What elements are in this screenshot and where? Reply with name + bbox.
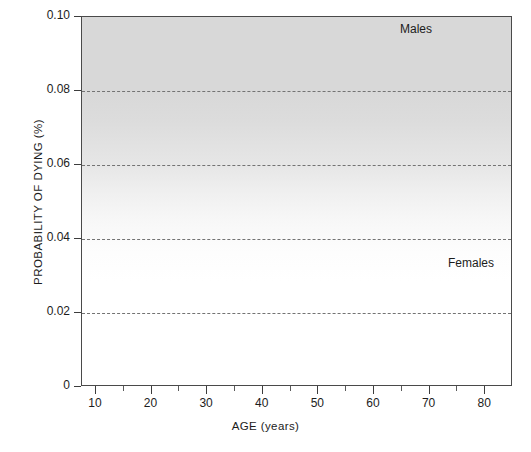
x-tick-label-6: 70 [409,396,449,410]
y-tick-label-0: 0 [26,378,70,392]
y-tick-label-5: 0.10 [26,8,70,22]
y-tick-label-2: 0.04 [26,230,70,244]
plot-area [81,16,512,386]
y-tick-label-1: 0.02 [26,304,70,318]
x-tick-6 [429,386,430,394]
y-tick-5 [74,16,81,17]
gridline-0.02 [82,313,511,314]
x-tick-0 [95,386,96,394]
y-tick-1 [74,312,81,313]
y-tick-4 [74,90,81,91]
x-tick-label-3: 40 [242,396,282,410]
x-tick-minor-1 [178,386,179,391]
chart-figure: PROBABILITY OF DYING (%) 00.020.040.060.… [0,0,531,452]
y-tick-label-3: 0.06 [26,156,70,170]
x-tick-minor-4 [345,386,346,391]
x-tick-2 [206,386,207,394]
x-tick-label-4: 50 [297,396,337,410]
gridline-0.08 [82,91,511,92]
x-tick-label-2: 30 [186,396,226,410]
gridline-0.04 [82,239,511,240]
x-tick-minor-5 [401,386,402,391]
x-tick-label-0: 10 [75,396,115,410]
x-tick-label-7: 80 [464,396,504,410]
x-tick-minor-6 [456,386,457,391]
gridline-0.06 [82,165,511,166]
figure-footnote [46,441,506,450]
plot-background-gradient [82,17,511,385]
x-tick-minor-3 [290,386,291,391]
x-tick-7 [484,386,485,394]
series-label-males: Males [400,22,432,36]
y-tick-2 [74,238,81,239]
x-axis-title: AGE (years) [0,420,531,432]
y-tick-label-4: 0.08 [26,82,70,96]
y-axis-title: PROBABILITY OF DYING (%) [32,82,44,322]
x-tick-label-1: 20 [131,396,171,410]
x-tick-5 [373,386,374,394]
x-tick-label-5: 60 [353,396,393,410]
x-tick-1 [151,386,152,394]
series-label-females: Females [448,256,494,270]
x-tick-3 [262,386,263,394]
x-tick-minor-0 [123,386,124,391]
y-tick-0 [74,386,81,387]
y-tick-3 [74,164,81,165]
x-tick-minor-2 [234,386,235,391]
x-tick-4 [317,386,318,394]
